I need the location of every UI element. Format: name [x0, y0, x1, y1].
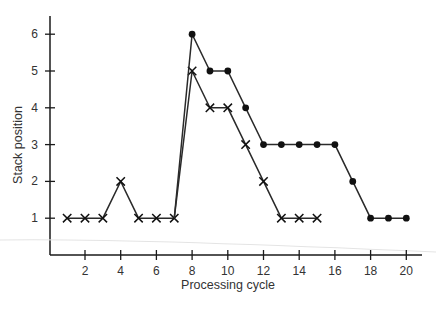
y-tick-label: 2 [31, 174, 38, 188]
axes: 1234562468101214161820 [0, 16, 436, 278]
series-layer [63, 31, 410, 223]
data-point-cross [117, 177, 125, 185]
y-tick-label: 4 [31, 101, 38, 115]
x-tick-label: 2 [82, 264, 89, 278]
data-point-dot [332, 141, 339, 148]
data-point-dot [207, 68, 214, 75]
x-axis-title: Processing cycle [181, 278, 275, 292]
data-point-dot [314, 141, 321, 148]
data-point-dot [367, 215, 374, 222]
data-point-dot [403, 215, 410, 222]
data-point-dot [278, 141, 285, 148]
x-tick-label: 6 [153, 264, 160, 278]
series-dot [174, 31, 409, 222]
x-tick-label: 18 [364, 264, 378, 278]
data-point-dot [242, 104, 249, 111]
x-tick-label: 8 [189, 264, 196, 278]
data-point-dot [296, 141, 303, 148]
x-tick-label: 10 [221, 264, 235, 278]
y-tick-label: 6 [31, 27, 38, 41]
x-tick-label: 20 [400, 264, 414, 278]
y-axis-title: Stack position [11, 106, 25, 184]
y-tick-label: 3 [31, 138, 38, 152]
data-point-dot [385, 215, 392, 222]
data-point-dot [260, 141, 267, 148]
y-tick-label: 1 [31, 211, 38, 225]
data-point-cross [259, 177, 267, 185]
x-tick-label: 12 [257, 264, 271, 278]
data-point-dot [189, 31, 196, 38]
x-tick-label: 14 [293, 264, 307, 278]
data-point-dot [224, 68, 231, 75]
x-tick-label: 16 [328, 264, 342, 278]
data-point-cross [241, 140, 249, 148]
x-tick-label: 4 [117, 264, 124, 278]
data-point-dot [349, 178, 356, 185]
y-tick-label: 5 [31, 64, 38, 78]
line-chart: 1234562468101214161820 Processing cycle … [0, 0, 436, 311]
series-line [174, 34, 406, 218]
